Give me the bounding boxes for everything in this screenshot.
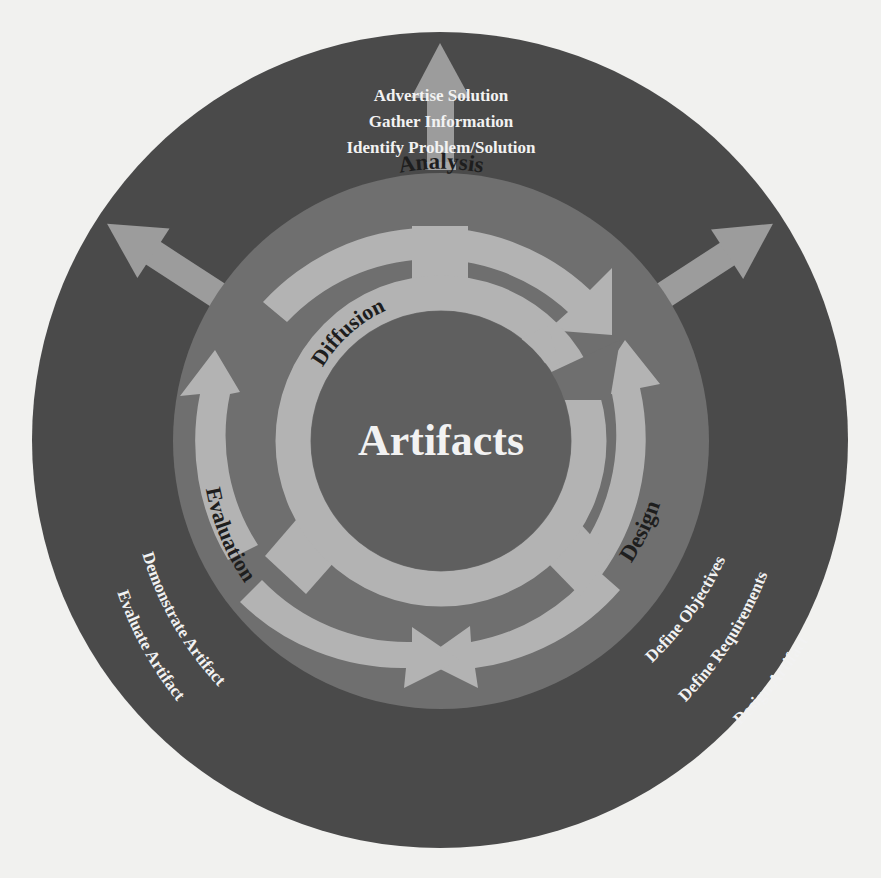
output-advertise-solution: Advertise Solution (374, 86, 509, 105)
output-identify-problem: Identify Problem/Solution (346, 138, 536, 157)
center-label: Artifacts (358, 416, 524, 465)
output-gather-information: Gather Information (369, 112, 514, 131)
sdlc-cycle-diagram: Artifacts Analysis Diffusion Evaluation … (0, 0, 881, 878)
